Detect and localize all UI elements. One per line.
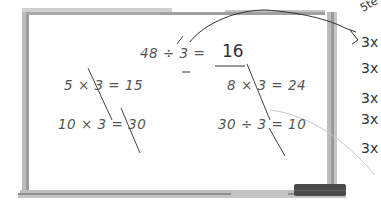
equation-4: 30 ÷ 3 = 10 (218, 116, 306, 132)
equation-1: 5 × 3 = 15 (64, 77, 143, 93)
margin-note-1: 3x (361, 34, 378, 50)
equation-2: 8 × 3 = 24 (227, 77, 306, 93)
divisor: 3 (180, 45, 189, 61)
margin-note-4: 3x (361, 111, 378, 127)
whiteboard-frame (18, 8, 346, 198)
equation-3: 10 × 3 = 30 (58, 116, 146, 132)
margin-note-2: 3x (361, 60, 378, 76)
equals-sign: = (189, 45, 206, 61)
margin-note-3: 3x (361, 90, 378, 106)
answer: 16 (222, 41, 244, 61)
dividend: 48 ÷ (140, 45, 180, 61)
main-equation: 48 ÷ 3 = (140, 45, 205, 61)
whiteboard-drawing (0, 0, 381, 214)
marker-icon (231, 190, 288, 196)
margin-note-5: 3x (361, 140, 378, 156)
